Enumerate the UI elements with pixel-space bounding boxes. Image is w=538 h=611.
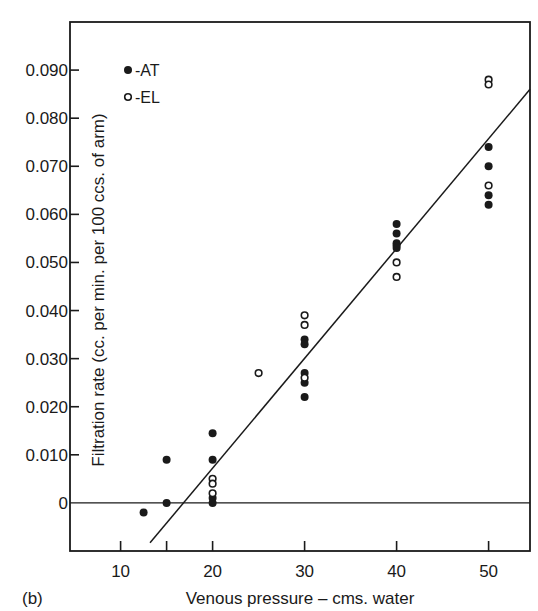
- legend-marker-el: [125, 94, 132, 101]
- y-tick-label: 0.020: [25, 398, 68, 417]
- data-point-at: [209, 456, 217, 464]
- y-tick-label: 0.050: [25, 253, 68, 272]
- x-tick-label: 50: [479, 562, 498, 581]
- x-tick-label: 30: [295, 562, 314, 581]
- data-point-at: [393, 230, 401, 238]
- y-axis-title: Filtration rate (cc. per min. per 100 cc…: [89, 113, 108, 466]
- y-tick-label: 0.060: [25, 205, 68, 224]
- data-point-at: [485, 201, 493, 209]
- x-tick-label: 10: [111, 562, 130, 581]
- x-tick-label: 40: [387, 562, 406, 581]
- data-point-at: [209, 429, 217, 437]
- y-tick-label: 0.040: [25, 302, 68, 321]
- data-point-at: [140, 509, 148, 517]
- data-point-at: [301, 340, 309, 348]
- data-point-el: [255, 370, 262, 377]
- regression-line: [150, 89, 530, 542]
- data-point-at: [393, 244, 401, 252]
- data-point-el: [393, 274, 400, 281]
- x-axis-title: Venous pressure – cms. water: [186, 589, 415, 608]
- y-tick-label: 0.070: [25, 157, 68, 176]
- data-points: [140, 76, 493, 516]
- data-point-el: [301, 312, 308, 319]
- data-point-el: [485, 182, 492, 189]
- data-point-at: [485, 191, 493, 199]
- y-tick-label: 0.090: [25, 61, 68, 80]
- x-tick-label: 20: [203, 562, 222, 581]
- data-point-el: [485, 81, 492, 88]
- y-tick-label: 0.080: [25, 109, 68, 128]
- data-point-el: [393, 259, 400, 266]
- data-point-el: [301, 322, 308, 329]
- data-point-el: [209, 480, 216, 487]
- data-point-el: [301, 375, 308, 382]
- data-point-at: [301, 393, 309, 401]
- data-point-at: [485, 162, 493, 170]
- y-tick-label: 0.030: [25, 350, 68, 369]
- legend-marker-at: [124, 66, 132, 74]
- data-point-at: [163, 456, 171, 464]
- y-tick-label: 0.010: [25, 446, 68, 465]
- data-point-at: [393, 220, 401, 228]
- legend-label-el: -EL: [135, 89, 160, 106]
- scatter-chart: 00.0100.0200.0300.0400.0500.0600.0700.08…: [0, 0, 538, 611]
- data-point-at: [209, 499, 217, 507]
- y-axis-ticks: 00.0100.0200.0300.0400.0500.0600.0700.08…: [25, 61, 79, 513]
- data-point-at: [485, 143, 493, 151]
- legend: -AT -EL: [124, 62, 160, 106]
- y-tick-label: 0: [59, 494, 68, 513]
- data-point-el: [209, 490, 216, 497]
- panel-label: (b): [22, 589, 43, 608]
- fit-line: [150, 89, 530, 542]
- legend-label-at: -AT: [135, 62, 160, 79]
- data-point-at: [163, 499, 171, 507]
- x-axis-ticks: 1020304050: [111, 541, 498, 581]
